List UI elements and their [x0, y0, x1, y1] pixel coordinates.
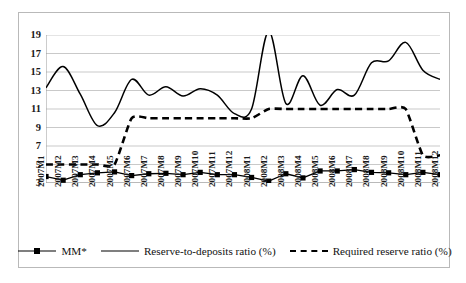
data-point-marker [46, 174, 49, 179]
x-tick-label: 2007M6 [122, 155, 132, 187]
y-tick-label: 15 [31, 67, 42, 78]
y-tick-label: 9 [36, 122, 41, 133]
legend-label: MM* [61, 245, 87, 257]
x-tick-label: 2007M9 [173, 155, 183, 187]
x-tick-label: 2008M7 [344, 155, 354, 187]
x-tick-label: 2007M12 [224, 151, 234, 187]
x-tick-label: 2008M10 [396, 151, 406, 187]
x-tick-label: 2008M4 [293, 155, 303, 187]
x-axis: 2007M12007M22007M32007M42007M52007M62007… [46, 185, 440, 247]
x-tick-label: 2008M1 [242, 155, 252, 187]
x-tick-label: 2007M1 [36, 155, 46, 187]
x-tick-label: 2008M9 [379, 155, 389, 187]
legend-swatch-icon [18, 246, 56, 257]
x-tick-label: 2007M7 [139, 155, 149, 187]
legend-item[interactable]: Required reserve ratio (%) [290, 245, 452, 257]
x-tick-label: 2007M8 [156, 155, 166, 187]
x-tick-label: 2008M3 [276, 155, 286, 187]
x-tick-label: 2007M11 [207, 151, 217, 187]
x-tick-label: 2008M11 [413, 151, 423, 187]
x-tick-label: 2007M3 [70, 155, 80, 187]
y-tick-label: 11 [31, 104, 41, 115]
y-tick-label: 13 [31, 85, 42, 96]
y-tick-label: 19 [31, 30, 42, 41]
x-tick-label: 2008M5 [310, 155, 320, 187]
legend-label: Reserve-to-deposits ratio (%) [144, 245, 276, 257]
legend-swatch-icon [101, 246, 139, 257]
x-tick-label: 2008M12 [430, 151, 440, 187]
chart-container: 35791113151719 2007M12007M22007M32007M42… [0, 0, 466, 283]
x-tick-label: 2007M10 [190, 151, 200, 187]
legend-label: Required reserve ratio (%) [333, 245, 452, 257]
legend-swatch-icon [290, 246, 328, 257]
legend-item[interactable]: MM* [18, 245, 87, 257]
y-tick-label: 17 [31, 48, 42, 59]
x-tick-label: 2007M2 [53, 155, 63, 187]
x-tick-label: 2008M6 [327, 155, 337, 187]
y-tick-label: 7 [36, 141, 41, 152]
chart-legend: MM*Reserve-to-deposits ratio (%)Required… [29, 241, 441, 261]
chart-frame: 35791113151719 2007M12007M22007M32007M42… [18, 12, 450, 268]
legend-item[interactable]: Reserve-to-deposits ratio (%) [101, 245, 276, 257]
series-line [46, 35, 440, 126]
x-tick-label: 2008M8 [361, 155, 371, 187]
x-tick-label: 2007M4 [87, 155, 97, 187]
x-tick-label: 2007M5 [105, 155, 115, 187]
x-tick-label: 2008M2 [259, 155, 269, 187]
